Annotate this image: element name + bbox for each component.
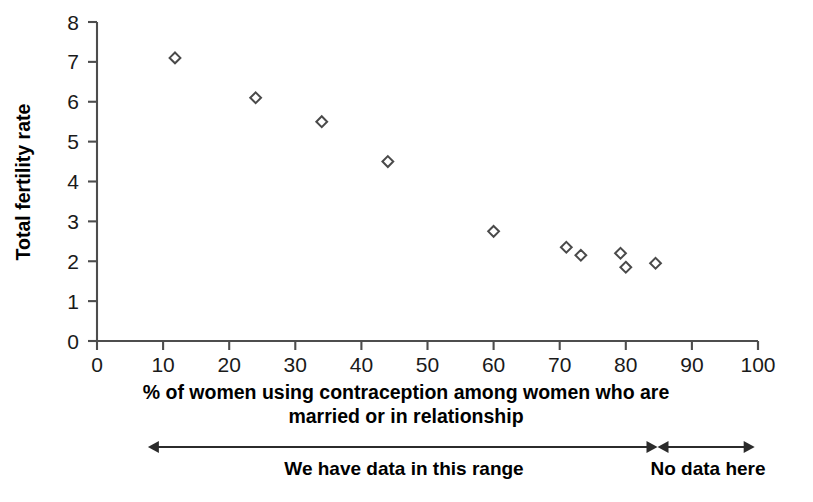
x-tick-label-0: 0 [91, 353, 103, 376]
data-point-marker [650, 258, 661, 269]
x-tick-label-100: 100 [740, 353, 775, 376]
data-point-marker [170, 52, 181, 63]
annotation-arrow-head-right-0 [647, 441, 658, 453]
x-tick-label-20: 20 [218, 353, 241, 376]
data-point-marker [250, 92, 261, 103]
y-axis-ticks [88, 22, 97, 341]
y-tick-label-5: 5 [67, 130, 79, 153]
x-tick-label-10: 10 [151, 353, 174, 376]
annotation-arrow-head-right-1 [744, 441, 755, 453]
x-tick-label-30: 30 [284, 353, 307, 376]
annotation-label-data-range: We have data in this range [284, 458, 523, 479]
data-point-marker [561, 242, 572, 253]
x-tick-label-80: 80 [614, 353, 637, 376]
x-tick-label-60: 60 [482, 353, 505, 376]
y-tick-label-2: 2 [67, 250, 79, 273]
data-point-marker [488, 226, 499, 237]
data-points [170, 52, 661, 272]
x-axis-title-line2: married or in relationship [288, 405, 523, 427]
axes [97, 22, 758, 350]
y-tick-label-6: 6 [67, 90, 79, 113]
scatter-chart-figure: 0102030405060708090100 012345678 % of wo… [0, 0, 813, 502]
y-axis-tick-labels: 012345678 [67, 11, 79, 353]
axis-lines [97, 22, 758, 341]
y-axis-title: Total fertility rate [12, 103, 34, 260]
y-tick-label-7: 7 [67, 50, 79, 73]
x-tick-label-70: 70 [548, 353, 571, 376]
annotation-label-no-data: No data here [650, 458, 765, 479]
data-point-marker [382, 156, 393, 167]
y-tick-label-4: 4 [67, 170, 79, 193]
x-tick-label-90: 90 [680, 353, 703, 376]
x-tick-label-50: 50 [416, 353, 439, 376]
range-annotations [148, 441, 755, 453]
y-tick-label-3: 3 [67, 210, 79, 233]
data-point-marker [575, 250, 586, 261]
y-tick-label-8: 8 [67, 11, 79, 34]
data-point-marker [620, 262, 631, 273]
annotation-arrow-head-left-1 [658, 441, 669, 453]
y-tick-label-0: 0 [67, 330, 79, 353]
x-axis-tick-labels: 0102030405060708090100 [91, 353, 775, 376]
data-point-marker [615, 248, 626, 259]
annotation-arrow-head-left-0 [148, 441, 159, 453]
chart-canvas: 0102030405060708090100 012345678 % of wo… [0, 0, 813, 502]
x-axis-title-line1: % of women using contraception among wom… [143, 381, 670, 403]
data-point-marker [316, 116, 327, 127]
x-tick-label-40: 40 [350, 353, 373, 376]
x-axis-ticks [97, 341, 758, 350]
y-tick-label-1: 1 [67, 290, 79, 313]
